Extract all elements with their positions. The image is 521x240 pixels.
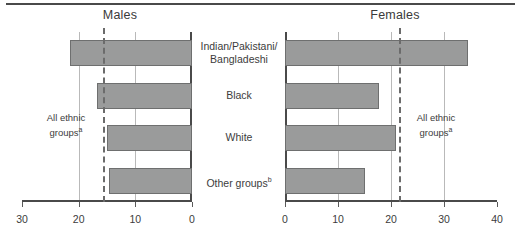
- reference-label-males-marker: a: [79, 126, 83, 133]
- panel-title-males: Males: [60, 8, 180, 22]
- bar-females-0: [285, 40, 468, 66]
- axis-tick: [192, 202, 193, 207]
- reference-label-females-line1: All ethnic: [417, 112, 456, 123]
- category-label-0-line1: Indian/Pakistani/: [200, 40, 277, 52]
- category-label-0: Indian/Pakistani/Bangladeshi: [196, 40, 282, 65]
- axis-tick: [497, 202, 498, 207]
- reference-label-females: All ethnic groupsa: [404, 112, 468, 139]
- axis-tick: [22, 202, 23, 207]
- reference-line-males: [103, 28, 105, 202]
- reference-label-males-line2: groups: [50, 127, 79, 138]
- bar-males-2: [107, 125, 192, 151]
- bar-females-2: [285, 125, 396, 151]
- bar-males-1: [97, 83, 192, 109]
- bar-males-3: [109, 168, 192, 194]
- bar-females-1: [285, 83, 379, 109]
- axis-tick: [135, 202, 136, 207]
- panel-title-females: Females: [335, 8, 455, 22]
- category-label-1-line1: Black: [226, 89, 252, 101]
- axis-tick: [391, 202, 392, 207]
- reference-label-females-line2: groups: [420, 127, 449, 138]
- category-label-0-line2: Bangladeshi: [210, 53, 268, 65]
- reference-label-males-line1: All ethnic: [47, 112, 86, 123]
- axis-tick-label: 10: [323, 213, 353, 225]
- axis-tick-label: 20: [376, 213, 406, 225]
- category-label-3: Other groupsb: [196, 174, 282, 189]
- axis-tick-label: 0: [177, 213, 207, 225]
- axis-tick: [285, 202, 286, 207]
- reference-label-males: All ethnic groupsa: [34, 112, 98, 139]
- axis-tick-label: 20: [64, 213, 94, 225]
- axis-tick-label: 40: [482, 213, 512, 225]
- bar-males-0: [70, 40, 192, 66]
- axis-baseline: [22, 200, 192, 202]
- axis-tick: [444, 202, 445, 207]
- top-rule: [6, 3, 515, 5]
- category-label-1: Black: [196, 89, 282, 102]
- axis-tick-label: 30: [7, 213, 37, 225]
- axis-tick-label: 10: [120, 213, 150, 225]
- category-label-3-marker: b: [268, 176, 272, 183]
- reference-line-females: [399, 28, 401, 202]
- axis-tick-label: 0: [270, 213, 300, 225]
- category-label-3-line1: Other groups: [206, 176, 267, 188]
- chart-figure: Males Females 3020100 010203040 Indian/P…: [0, 0, 521, 240]
- bar-females-3: [285, 168, 365, 194]
- axis-baseline: [285, 200, 497, 202]
- reference-label-females-marker: a: [449, 126, 453, 133]
- category-label-column: Indian/Pakistani/BangladeshiBlackWhiteOt…: [196, 32, 282, 202]
- category-label-2-line1: White: [226, 131, 253, 143]
- category-label-2: White: [196, 131, 282, 144]
- axis-tick: [79, 202, 80, 207]
- axis-tick-label: 30: [429, 213, 459, 225]
- axis-tick: [338, 202, 339, 207]
